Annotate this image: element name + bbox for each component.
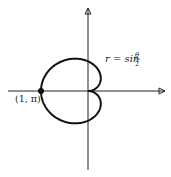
point-label: (1, π) (15, 93, 41, 104)
equation-fraction-numerator: θ (135, 51, 139, 59)
polar-plot: (1, π) r = sin θ 2 (0, 0, 171, 177)
equation-fraction-denominator: 2 (135, 60, 139, 68)
equation-label: r = sin θ 2 (105, 51, 140, 68)
